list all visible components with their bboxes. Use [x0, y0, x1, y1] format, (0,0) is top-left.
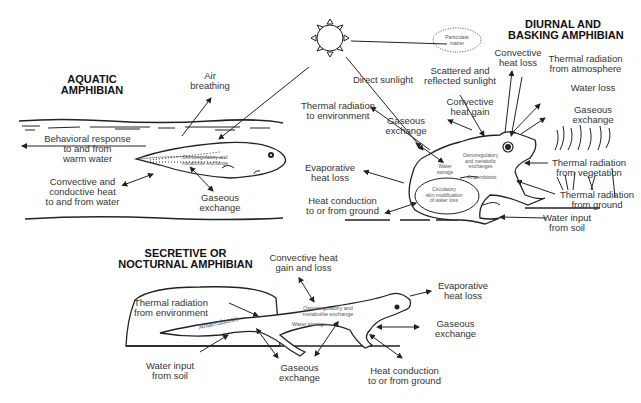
- label-particulate-matter: Particulatematter: [440, 35, 474, 46]
- label-frog-osmoregulatory: Osmoregulatoryand metabolicexchanges: [458, 153, 503, 170]
- aquatic-amphibian-title: AQUATICAMPHIBIAN: [52, 74, 132, 96]
- label-salamander-water-input: Water inputfrom soil: [140, 361, 200, 381]
- label-thermal-vegetation: Thermal radiationfrom vegetation: [548, 158, 630, 178]
- label-air-breathing: Airbreathing: [185, 71, 235, 91]
- secretive-amphibian-title: SECRETIVE ORNOCTURNAL AMPHIBIAN: [118, 248, 253, 270]
- salamander-scene: [126, 281, 431, 358]
- label-salamander-gaseous-right: Gaseousexchange: [428, 319, 483, 339]
- label-evaporative-heat-loss: Evaporativeheat loss: [300, 163, 360, 183]
- label-frog-water-input: Water inputfrom soil: [537, 213, 597, 233]
- label-aquatic-gaseous-exchange: Gaseousexchange: [195, 193, 245, 213]
- label-frog-circulatory: Circulatoryskin modificationof water los…: [419, 187, 469, 204]
- label-convective-heat-loss: Convectiveheat loss: [488, 48, 548, 68]
- label-frog-gaseous-right: Gaseousexchange: [568, 105, 618, 125]
- label-salamander-convective: Convective heatgain and loss: [266, 253, 341, 273]
- label-thermal-atmosphere: Thermal radiationfrom atmosphere: [543, 54, 628, 74]
- label-frog-anaerobiosis: Anaerobiosis: [462, 175, 502, 181]
- label-convective-conductive: Convective andconductive heatto and from…: [40, 177, 125, 207]
- label-salamander-heat-conduction: Heat conductionto or from ground: [362, 366, 447, 386]
- label-behavioral-response: Behavioral responseto and fromwarm water: [40, 134, 135, 164]
- label-salamander-gaseous-bottom: Gaseousexchange: [272, 363, 327, 383]
- label-direct-sunlight: Direct sunlight: [343, 75, 423, 85]
- label-convective-heat-gain: Convectiveheat gain: [440, 97, 500, 117]
- label-salamander-osmoregulatory: Osmoregulatory andmetabolite exchange: [298, 306, 358, 317]
- label-frog-heat-conduction: Heat conductionto or from ground: [300, 196, 385, 216]
- label-salamander-water-storage: Water storage: [289, 322, 329, 328]
- label-scattered-sunlight: Scattered andreflected sunlight: [420, 66, 500, 86]
- diurnal-amphibian-title: DIURNAL ANDBASKING AMPHIBIAN: [508, 19, 618, 41]
- label-aquatic-osmoregulatory: Osmoregulatory andmetabolite exchange: [180, 155, 230, 166]
- label-water-loss: Water loss: [563, 83, 623, 93]
- label-salamander-evaporative: Evaporativeheat loss: [433, 281, 493, 301]
- sun-icon: [311, 19, 349, 57]
- label-frog-gaseous-left: Gaseousexchange: [381, 116, 431, 136]
- label-thermal-to-environment: Thermal radiationto environment: [298, 101, 378, 121]
- label-thermal-ground: Thermal radiationfrom ground: [556, 190, 638, 210]
- label-frog-water-storage: Waterstorage: [430, 164, 460, 175]
- label-salamander-thermal-env: Thermal radiationfrom environment: [134, 298, 214, 318]
